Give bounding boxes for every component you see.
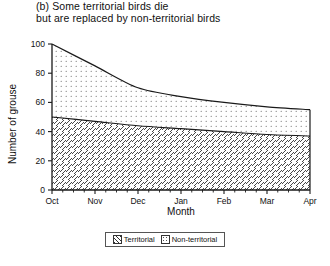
legend-entry-non-territorial: Non-territorial: [161, 235, 217, 244]
legend-entry-territorial: Territorial: [113, 235, 155, 244]
series-fills: [52, 44, 310, 190]
x-tick-label: Oct: [45, 196, 59, 206]
legend-label-territorial: Territorial: [124, 235, 155, 244]
y-tick-label: 80: [36, 68, 46, 78]
y-tick-label: 20: [36, 156, 46, 166]
x-tick-label: Dec: [130, 196, 146, 206]
x-tick-label: Apr: [303, 196, 316, 206]
y-axis-tick-labels: 020406080100: [31, 39, 45, 195]
x-tick-label: Nov: [87, 196, 103, 206]
y-tick-label: 60: [36, 97, 46, 107]
y-tick-label: 40: [36, 127, 46, 137]
y-tick-label: 100: [31, 39, 45, 49]
chart-plot-area: 020406080100 OctNovDecJanFebMarApr Numbe…: [0, 0, 330, 266]
legend-label-non-territorial: Non-territorial: [172, 235, 217, 244]
territorial-swatch: [113, 235, 122, 244]
figure-panel: (b) Some territorial birds die but are r…: [0, 0, 330, 266]
x-axis-tick-labels: OctNovDecJanFebMarApr: [45, 196, 316, 206]
y-tick-label: 0: [40, 185, 45, 195]
chart-legend: Territorial Non-territorial: [105, 232, 225, 247]
x-tick-label: Feb: [217, 196, 232, 206]
non-territorial-swatch: [161, 235, 170, 244]
x-tick-label: Jan: [174, 196, 188, 206]
x-axis-title: Month: [167, 206, 195, 217]
y-axis-title: Number of grouse: [7, 84, 18, 164]
x-tick-label: Mar: [260, 196, 275, 206]
